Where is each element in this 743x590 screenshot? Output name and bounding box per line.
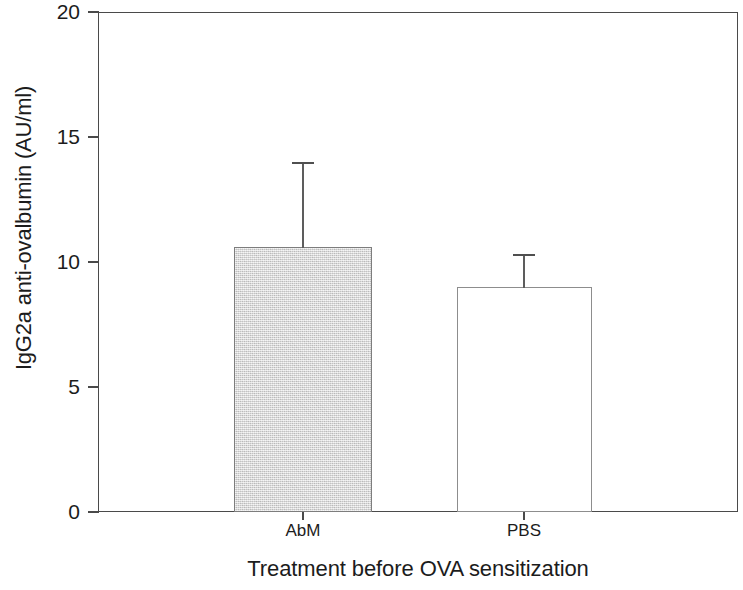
y-axis-title: IgG2a anti-ovalbumin (AU/ml) [2,0,46,478]
error-bar-cap-abm [292,162,314,164]
bar-pbs [457,287,592,512]
y-tick-label-0: 0 [20,501,80,522]
plot-area [98,12,738,512]
error-bar-stem-pbs [523,254,525,288]
y-tick-label-15: 15 [20,126,80,147]
bar-abm [234,247,372,512]
bar-chart-figure: IgG2a anti-ovalbumin (AU/ml) 0 5 10 15 2… [0,0,743,590]
y-tick-label-5: 5 [20,376,80,397]
y-tick-label-10: 10 [20,251,80,272]
x-axis-title: Treatment before OVA sensitization [98,556,738,582]
x-tick-mark-abm [302,512,304,520]
error-bar-stem-abm [302,162,304,248]
error-bar-cap-pbs [513,254,535,256]
x-tick-label-abm: AbM [223,521,383,541]
y-tick-label-20: 20 [20,1,80,22]
x-tick-label-pbs: PBS [444,521,604,541]
x-tick-mark-pbs [523,512,525,520]
